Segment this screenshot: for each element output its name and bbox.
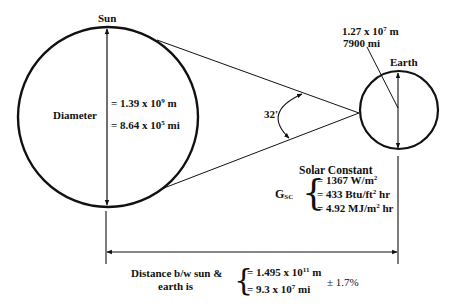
- distance-label-line2: earth is: [158, 281, 193, 292]
- distance-value-meters: = 1.495 x 1011 m: [247, 267, 321, 278]
- sun-title: Sun: [98, 13, 116, 24]
- distance-value-miles: = 9.3 x 107 mi: [247, 284, 310, 295]
- solar-constant-value-mj-text: = 4.92 MJ/m: [317, 202, 376, 214]
- earth-circle: [360, 71, 438, 149]
- sun-diameter-meters-unit: m: [165, 97, 177, 109]
- distance-value-miles-unit: mi: [295, 283, 310, 295]
- solar-constant-value-btu-text: = 433 Btu/ft: [317, 188, 373, 200]
- distance-value-meters-unit: m: [309, 266, 321, 278]
- solar-constant-value-w: = 1367 W/m2: [317, 175, 377, 186]
- solar-constant-value-btu: = 433 Btu/ft2 hr: [317, 189, 390, 200]
- distance-value-meters-text: = 1.495 x 10: [247, 266, 303, 278]
- sun-diameter-miles: = 8.64 x 105 mi: [111, 120, 180, 131]
- sun-diameter-miles-unit: mi: [165, 119, 180, 131]
- angle-label: 32': [264, 109, 278, 120]
- sun-earth-diagram-graphics: [0, 0, 451, 307]
- solar-constant-symbol-g: G: [275, 187, 284, 201]
- sun-circle: [18, 27, 198, 207]
- solar-constant-value-btu-suffix: hr: [376, 188, 390, 200]
- distance-label-line1: Distance b/w sun &: [131, 268, 222, 279]
- solar-constant-value-mj-suffix: hr: [380, 202, 394, 214]
- solar-constant-symbol-sub: SC: [284, 193, 293, 201]
- solar-constant-symbol: GSC: [275, 188, 293, 201]
- solar-constant-value-w-exp: 2: [374, 174, 378, 182]
- sun-diameter-meters-value: = 1.39 x 10: [111, 97, 161, 109]
- earth-diameter-miles: 7900 mi: [343, 38, 380, 49]
- earth-title: Earth: [390, 57, 418, 68]
- sun-diameter-miles-value: = 8.64 x 10: [111, 119, 161, 131]
- earth-diameter-meters: 1.27 x 107 m: [342, 26, 399, 37]
- earth-diameter-meters-unit: m: [387, 25, 399, 37]
- angle-arc: [278, 94, 302, 138]
- solar-constant-value-mj: = 4.92 MJ/m2 hr: [317, 203, 393, 214]
- sun-diameter-label: Diameter: [53, 110, 97, 121]
- sun-diameter-meters: = 1.39 x 109 m: [111, 98, 177, 109]
- earth-diameter-meters-value: 1.27 x 10: [342, 25, 383, 37]
- solar-constant-value-w-text: = 1367 W/m: [317, 174, 374, 186]
- distance-value-miles-text: = 9.3 x 10: [247, 283, 292, 295]
- distance-tolerance: ± 1.7%: [327, 277, 359, 288]
